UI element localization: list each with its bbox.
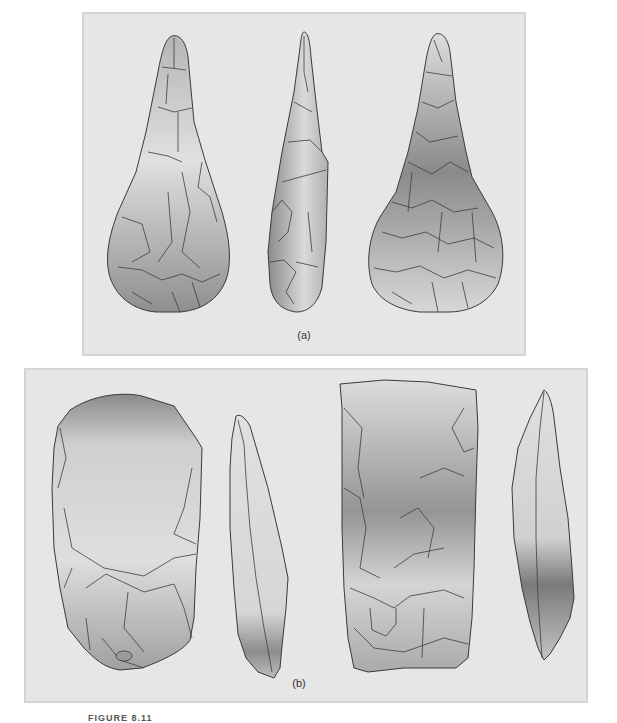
flake-tool-1-face-view — [52, 394, 202, 670]
flake-tool-1-profile-view — [230, 415, 288, 678]
flake-tool-2-face-view — [340, 380, 478, 672]
handaxe-illustration — [82, 12, 526, 356]
figure-panel-a: (a) — [82, 12, 526, 356]
figure-panel-b: (b) — [24, 368, 588, 703]
handaxe-side-view — [268, 32, 328, 312]
handaxe-front-view — [107, 36, 229, 312]
flake-tools-illustration — [24, 368, 588, 703]
figure-caption: FIGURE 8.11 — [88, 713, 153, 723]
panel-b-label: (b) — [279, 677, 319, 689]
flake-tool-2-profile-view — [512, 390, 574, 660]
handaxe-back-view — [369, 34, 503, 312]
panel-a-label: (a) — [284, 329, 324, 341]
